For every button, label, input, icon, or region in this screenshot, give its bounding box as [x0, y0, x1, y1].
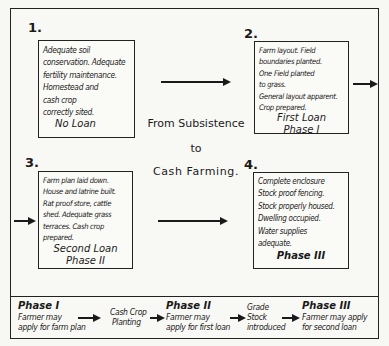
stage-2-box: Farm layout. Field boundaries planted. O…	[254, 41, 349, 134]
legend-phase-1-line-2: apply for farm plan	[18, 322, 86, 332]
legend-cash-crop-line-1: Cash Crop	[110, 307, 147, 317]
legend-phase-3-line-2: for second loan	[302, 322, 367, 332]
legend-item-phase-1: Phase I Farmer may apply for farm plan	[18, 300, 86, 332]
stage-1-number: 1.	[28, 20, 42, 35]
stage-2-description: Farm layout. Field boundaries planted. O…	[259, 45, 344, 113]
arrow-2-continue	[353, 83, 376, 85]
stage-3-loan: Second Loan	[43, 243, 128, 255]
stage-4-number: 4.	[244, 157, 258, 172]
legend-divider	[10, 296, 379, 297]
legend-item-cash-crop: Cash Crop Planting	[110, 307, 147, 327]
legend-grade-line-2: Stock	[247, 312, 285, 322]
stage-3-description: Farm plan laid down. House and latrine b…	[43, 175, 128, 243]
stage-3-box: Farm plan laid down. House and latrine b…	[38, 171, 133, 269]
legend-cash-crop-line-2: Planting	[110, 317, 147, 327]
legend-grade-line-3: introduced	[247, 322, 285, 332]
stage-4-description: Complete enclosure Stock proof fencing. …	[258, 176, 344, 250]
arrow-3-to-4	[158, 220, 226, 222]
arrow-into-3	[14, 220, 34, 222]
stage-1-loan: No Loan	[43, 118, 130, 130]
legend-phase-2-line-1: Farmer may	[166, 312, 230, 322]
stage-2-loan: First Loan	[259, 112, 344, 124]
legend-arrow-4	[282, 317, 298, 319]
title-line-1: From Subsistence	[140, 117, 252, 130]
legend-item-grade-stock: Grade Stock introduced	[247, 302, 285, 332]
legend-grade-line-1: Grade	[247, 302, 285, 312]
stage-3-number: 3.	[25, 155, 39, 170]
legend-phase-3-line-1: Farmer may apply	[302, 312, 367, 322]
stage-2-phase: Phase I	[259, 124, 344, 136]
stage-1-box: Adequate soil conservation. Adequate fer…	[38, 40, 135, 138]
stage-4-phase: Phase III	[258, 250, 344, 262]
legend-phase-3-title: Phase III	[302, 300, 367, 312]
legend-arrow-1	[78, 317, 99, 319]
legend-arrow-2	[150, 317, 163, 319]
stage-2-number: 2.	[244, 26, 258, 41]
legend-item-phase-3: Phase III Farmer may apply for second lo…	[302, 300, 367, 332]
arrow-1-to-2	[161, 81, 229, 83]
stage-3-phase: Phase II	[43, 255, 128, 267]
stage-1-description: Adequate soil conservation. Adequate fer…	[43, 44, 130, 118]
title-line-3: Cash Farming.	[140, 165, 252, 178]
legend-phase-2-line-2: apply for first loan	[166, 322, 230, 332]
legend-phase-2-title: Phase II	[166, 300, 230, 312]
legend-arrow-3	[230, 317, 244, 319]
legend-item-phase-2: Phase II Farmer may apply for first loan	[166, 300, 230, 332]
legend-phase-1-line-1: Farmer may	[18, 312, 86, 322]
title-line-2: to	[140, 142, 252, 155]
legend-phase-1-title: Phase I	[18, 300, 86, 312]
stage-4-box: Complete enclosure Stock proof fencing. …	[253, 172, 349, 269]
